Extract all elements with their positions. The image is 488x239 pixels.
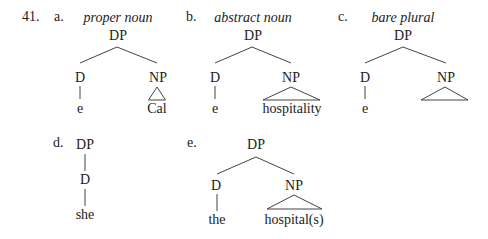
tree-c-caption: bare plural: [372, 10, 435, 25]
tree-a-branch-right: [117, 47, 157, 63]
tree-a-leaf-d: e: [77, 101, 83, 116]
tree-e-leaf-np: hospital(s): [264, 212, 323, 228]
tree-c-node-np: NP: [437, 70, 455, 85]
tree-b-branch-right: [252, 47, 291, 63]
tree-e: e. DP D NP the hospital(s): [187, 135, 324, 228]
tree-b-node-d: D: [210, 70, 220, 85]
tree-c-branch-left: [365, 47, 403, 63]
tree-d: d. DP D she: [53, 135, 94, 222]
tree-c-root-dp: DP: [394, 28, 412, 43]
tree-d-label: d.: [53, 135, 64, 150]
tree-b-leaf-d: e: [212, 101, 218, 116]
tree-b: b. abstract noun DP D NP e hospitality: [186, 9, 322, 116]
tree-c-branch-right: [403, 47, 446, 63]
tree-e-node-d: D: [211, 178, 221, 193]
tree-d-root-dp: DP: [76, 137, 94, 152]
tree-b-branch-left: [215, 47, 252, 63]
tree-a-node-d: D: [75, 70, 85, 85]
tree-b-np-triangle: [263, 87, 320, 100]
tree-e-node-np: NP: [285, 178, 303, 193]
syntax-tree-diagram: 41. a. proper noun DP D NP e Cal b. abst…: [0, 0, 488, 239]
tree-e-root-dp: DP: [247, 137, 265, 152]
tree-e-np-triangle: [267, 195, 322, 209]
tree-c-leaf-d: e: [362, 101, 368, 116]
tree-e-label: e.: [187, 135, 197, 150]
tree-a: a. proper noun DP D NP e Cal: [54, 9, 167, 116]
tree-e-branch-left: [217, 157, 256, 174]
tree-a-np-triangle: [149, 87, 166, 100]
tree-b-label: b.: [186, 9, 197, 24]
tree-e-branch-right: [256, 157, 294, 174]
tree-a-root-dp: DP: [109, 28, 127, 43]
tree-c-node-d: D: [360, 70, 370, 85]
tree-a-caption: proper noun: [82, 10, 152, 25]
tree-a-node-np: NP: [149, 70, 167, 85]
tree-c-np-triangle: [421, 87, 468, 100]
tree-d-leaf-d: she: [76, 207, 95, 222]
tree-b-node-np: NP: [282, 70, 300, 85]
tree-a-branch-left: [80, 47, 117, 63]
tree-c: c. bare plural DP D NP e: [338, 9, 468, 116]
tree-b-caption: abstract noun: [214, 10, 291, 25]
tree-b-leaf-np: hospitality: [262, 101, 321, 116]
tree-c-label: c.: [338, 9, 348, 24]
tree-a-label: a.: [54, 9, 64, 24]
example-number: 41.: [22, 9, 40, 24]
tree-e-leaf-d: the: [208, 212, 225, 227]
tree-d-node-d: D: [80, 172, 90, 187]
tree-a-leaf-np: Cal: [147, 101, 167, 116]
tree-b-root-dp: DP: [244, 28, 262, 43]
